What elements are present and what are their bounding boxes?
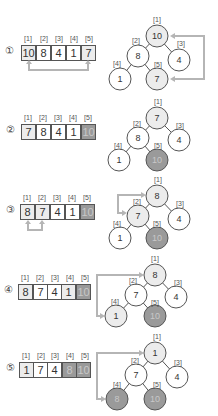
- svg-text:[2]: [2]: [133, 198, 141, 206]
- step-2: ② [1] [2] [3] [4] [5] 7 8 4 1 10 [1] [2]…: [0, 95, 218, 175]
- svg-text:[3]: [3]: [177, 40, 185, 48]
- svg-text:[4]: [4]: [113, 60, 121, 68]
- svg-text:[2]: [2]: [133, 120, 141, 128]
- tree-node: 4: [168, 135, 190, 145]
- svg-text:[3]: [3]: [176, 122, 184, 130]
- tree-node: 7: [146, 74, 168, 84]
- tree-node: 4: [166, 372, 188, 382]
- svg-text:[1]: [1]: [153, 16, 161, 24]
- svg-text:[1]: [1]: [154, 98, 162, 106]
- tree-node: 7: [125, 370, 147, 380]
- tree-node: 8: [146, 191, 168, 201]
- svg-text:[3]: [3]: [174, 279, 182, 287]
- svg-text:[1]: [1]: [153, 333, 161, 341]
- tree-node: 7: [127, 211, 149, 221]
- step-1: ① [1] [2] [3] [4] [5] 10 8 4 1 7 [1] [2]…: [0, 0, 218, 95]
- tree-node: 7: [125, 290, 147, 300]
- tree-node: 1: [109, 74, 131, 84]
- tree-node: 8: [127, 133, 149, 143]
- tree-node: 8: [144, 270, 166, 280]
- tree-node: 10: [146, 233, 168, 243]
- swap-arrow: [29, 62, 88, 70]
- svg-text:[5]: [5]: [151, 299, 159, 307]
- svg-text:[1]: [1]: [151, 255, 159, 263]
- tree-node: 10: [146, 31, 168, 41]
- svg-text:[2]: [2]: [129, 277, 137, 285]
- tree-node: 10: [144, 394, 166, 404]
- svg-text:[4]: [4]: [111, 298, 119, 306]
- tree-node: 8: [106, 394, 128, 404]
- tree-node: 7: [146, 113, 168, 123]
- tree-node: 8: [127, 51, 149, 61]
- step-5: ⑤ [1] [2] [3] [4] [5] 1 7 4 8 10 [1] [2]…: [0, 333, 218, 416]
- svg-text:[2]: [2]: [131, 357, 139, 365]
- tree-node: 4: [165, 292, 187, 302]
- tree-node: 1: [105, 311, 127, 321]
- svg-text:[3]: [3]: [176, 200, 184, 208]
- svg-text:[4]: [4]: [114, 142, 122, 150]
- svg-text:[4]: [4]: [113, 381, 121, 389]
- step-3: ③ [1] [2] [3] [4] [5] 8 7 4 1 10 [1] [2]…: [0, 175, 218, 255]
- svg-text:[5]: [5]: [153, 381, 161, 389]
- svg-text:[5]: [5]: [154, 142, 162, 150]
- tree-node: 10: [146, 155, 168, 165]
- tree-node: 4: [168, 55, 190, 65]
- tree-node: 1: [144, 348, 166, 358]
- tree-node: 10: [144, 311, 166, 321]
- tree-node: 1: [108, 155, 130, 165]
- tree-node: 1: [109, 233, 131, 243]
- svg-text:[2]: [2]: [132, 37, 140, 45]
- svg-text:[4]: [4]: [113, 220, 121, 228]
- step-4: ④ [1] [2] [3] [4] [5] 8 7 4 1 10 [1] [2]…: [0, 255, 218, 333]
- svg-text:[5]: [5]: [154, 61, 162, 69]
- tree-node: 4: [168, 214, 190, 224]
- svg-text:[3]: [3]: [174, 359, 182, 367]
- svg-text:[5]: [5]: [153, 220, 161, 228]
- svg-text:[1]: [1]: [154, 176, 162, 184]
